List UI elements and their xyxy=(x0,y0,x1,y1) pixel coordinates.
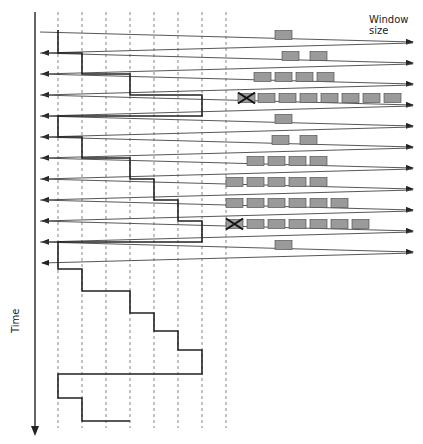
packet xyxy=(275,73,292,82)
send-arrow xyxy=(40,116,413,126)
time-axis-label: Time xyxy=(10,309,21,333)
ack-arrow xyxy=(42,64,413,74)
packet xyxy=(282,52,299,61)
send-arrow xyxy=(40,53,413,63)
packet xyxy=(310,52,327,61)
window-size-label: Window size xyxy=(369,14,423,36)
packet xyxy=(247,220,264,229)
packet xyxy=(352,220,369,229)
packet xyxy=(226,199,243,208)
packet xyxy=(279,94,296,103)
packet xyxy=(247,178,264,187)
packet xyxy=(310,157,327,166)
packet xyxy=(268,157,285,166)
packet xyxy=(331,220,348,229)
send-arrow xyxy=(40,242,413,252)
ack-arrow xyxy=(42,148,413,158)
packet xyxy=(289,178,306,187)
packet xyxy=(289,157,306,166)
packet xyxy=(310,220,327,229)
packet xyxy=(363,94,380,103)
packet xyxy=(268,220,285,229)
packet xyxy=(275,241,292,250)
send-arrow xyxy=(40,158,413,168)
packet xyxy=(310,199,327,208)
packet xyxy=(275,31,292,40)
packet xyxy=(268,199,285,208)
packet xyxy=(300,94,317,103)
packet xyxy=(254,73,271,82)
packet xyxy=(331,199,348,208)
packet xyxy=(226,178,243,187)
packet xyxy=(247,199,264,208)
packet xyxy=(321,94,338,103)
ack-arrow xyxy=(42,253,413,263)
packet xyxy=(247,157,264,166)
packet xyxy=(384,94,401,103)
send-arrow xyxy=(40,74,413,84)
packet xyxy=(300,136,317,145)
packet xyxy=(310,178,327,187)
packet xyxy=(342,94,359,103)
packet xyxy=(272,136,289,145)
ack-arrow xyxy=(42,127,413,137)
packet xyxy=(289,220,306,229)
packet xyxy=(296,73,313,82)
ack-arrow xyxy=(42,232,413,242)
send-arrow xyxy=(40,137,413,147)
packet xyxy=(275,115,292,124)
send-arrow xyxy=(40,32,413,42)
tcp-window-diagram xyxy=(0,0,423,444)
packet xyxy=(268,178,285,187)
packet xyxy=(317,73,334,82)
packet xyxy=(289,199,306,208)
packets xyxy=(226,31,401,250)
time-axis-arrow xyxy=(31,12,39,436)
packet xyxy=(258,94,275,103)
ack-arrow xyxy=(42,43,413,53)
ack-arrow xyxy=(42,106,413,116)
